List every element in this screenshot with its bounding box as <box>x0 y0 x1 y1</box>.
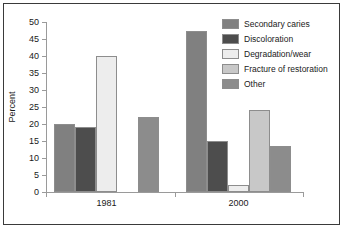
y-axis-line <box>46 22 47 192</box>
y-tick-label: 50 <box>29 18 39 27</box>
y-tick <box>42 73 46 74</box>
legend-item[interactable]: Discoloration <box>222 33 338 45</box>
x-group-label: 2000 <box>228 198 248 208</box>
y-tick <box>42 90 46 91</box>
bar <box>96 56 117 192</box>
y-tick <box>42 175 46 176</box>
legend-item[interactable]: Other <box>222 78 338 90</box>
x-group-label: 1981 <box>96 198 116 208</box>
y-tick-label: 35 <box>29 69 39 78</box>
y-tick-label: 30 <box>29 86 39 95</box>
y-tick-label: 0 <box>34 188 39 197</box>
bar <box>138 117 159 192</box>
legend-swatch-icon <box>222 34 239 44</box>
legend-item-label: Discoloration <box>244 35 293 44</box>
chart-frame: Percent 05101520253035404550 19812000 Se… <box>3 3 340 225</box>
y-tick-label: 20 <box>29 120 39 129</box>
bar <box>54 124 75 192</box>
y-tick <box>42 141 46 142</box>
y-tick <box>42 39 46 40</box>
y-tick <box>42 107 46 108</box>
y-axis-title: Percent <box>7 91 17 122</box>
bar <box>186 31 207 193</box>
y-tick-label: 5 <box>34 171 39 180</box>
legend-item-label: Fracture of restoration <box>244 65 328 74</box>
bar <box>228 185 249 192</box>
legend-swatch-icon <box>222 49 239 59</box>
y-tick <box>42 124 46 125</box>
y-tick <box>42 158 46 159</box>
y-tick <box>42 22 46 23</box>
bar <box>207 141 228 192</box>
bar <box>249 110 270 192</box>
bar <box>270 146 291 192</box>
x-group-separator <box>46 192 47 197</box>
y-tick <box>42 56 46 57</box>
legend-item-label: Other <box>244 80 265 89</box>
y-tick-label: 45 <box>29 35 39 44</box>
legend-swatch-icon <box>222 19 239 29</box>
y-tick-label: 40 <box>29 52 39 61</box>
legend-item[interactable]: Secondary caries <box>222 18 338 30</box>
x-group-separator <box>303 192 304 197</box>
legend-item-label: Degradation/wear <box>244 50 311 59</box>
legend-item[interactable]: Degradation/wear <box>222 48 338 60</box>
legend-swatch-icon <box>222 79 239 89</box>
bar <box>75 127 96 192</box>
x-group-separator <box>175 192 176 197</box>
y-tick-label: 15 <box>29 137 39 146</box>
legend-item[interactable]: Fracture of restoration <box>222 63 338 75</box>
y-tick-label: 25 <box>29 103 39 112</box>
legend-swatch-icon <box>222 64 239 74</box>
legend: Secondary cariesDiscolorationDegradation… <box>222 18 338 93</box>
legend-item-label: Secondary caries <box>244 20 310 29</box>
y-tick-label: 10 <box>29 154 39 163</box>
plot-area: Percent 05101520253035404550 19812000 <box>46 22 226 192</box>
